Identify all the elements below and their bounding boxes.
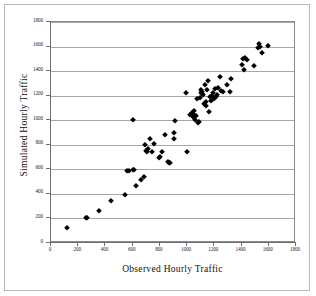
y-axis-tick [46,21,50,22]
data-point [162,132,168,138]
data-point [130,117,136,123]
x-axis-title: Observed Hourly Traffic [50,264,295,274]
y-axis-line [50,21,51,242]
x-axis-tick-label-text: 1000 [172,247,200,252]
data-point [172,118,178,124]
y-axis-tick [46,217,50,218]
data-point [257,43,263,49]
x-axis-tick-label: 1800 [281,247,309,255]
gridline-horizontal [51,96,294,97]
data-point [184,149,190,155]
y-axis-tick-label: 1800 [16,18,43,25]
x-axis-tick-label-text: 1800 [281,247,309,252]
x-axis-line [50,242,295,243]
data-point [149,149,155,155]
x-axis-tick-label-text: 0 [36,247,64,252]
data-point [220,89,226,95]
y-axis-tick-label: 0 [16,239,43,246]
gridline-horizontal [51,22,294,23]
gridline-horizontal [51,71,294,72]
x-axis-tick-label-text: 1600 [254,247,282,252]
x-axis-tick-label-text: 1200 [199,247,227,252]
data-point [223,82,229,88]
x-axis-tick-label-text: 400 [90,247,118,252]
x-axis-tick-label: 600 [118,247,146,255]
data-point [64,225,70,231]
x-axis-tick-label: 0 [36,247,64,255]
data-point [133,183,139,189]
x-axis-tick-label: 400 [90,247,118,255]
data-point [217,74,223,80]
y-axis-tick-label-text: 200 [16,214,43,219]
data-point [259,50,265,56]
x-axis-tick-label-text: 200 [63,247,91,252]
data-point [96,208,102,214]
y-axis-title: Simulated Hourly Traffic [19,40,29,210]
data-point [171,136,177,142]
plot-area [50,21,295,242]
x-axis-tick-label-text: 600 [118,247,146,252]
data-point [108,198,114,204]
x-axis-tick-label: 1600 [254,247,282,255]
x-axis-tick-label: 1400 [227,247,255,255]
y-axis-tick [46,144,50,145]
data-point [251,63,257,69]
gridline-horizontal [51,169,294,170]
x-axis-tick-label: 800 [145,247,173,255]
y-axis-tick [46,168,50,169]
data-point [84,215,90,221]
x-axis-tick-label: 1000 [172,247,200,255]
y-axis-tick [46,193,50,194]
data-point [265,43,271,49]
data-point [244,57,250,63]
x-axis-tick-label-text: 1400 [227,247,255,252]
y-axis-tick [46,119,50,120]
y-axis-tick-label-text: 0 [16,239,43,244]
gridline-horizontal [51,145,294,146]
data-point [121,192,127,198]
y-axis-tick [46,95,50,96]
y-axis-tick-label-text: 1800 [16,18,43,23]
data-point [151,141,157,147]
data-point [206,109,212,115]
y-axis-tick [46,70,50,71]
scatter-plot-figure: 020040060080010001200140016001800 020040… [0,0,316,296]
gridline-horizontal [51,194,294,195]
x-axis-tick-label: 200 [63,247,91,255]
data-point [227,89,233,95]
y-axis-tick [46,46,50,47]
x-axis-tick-label: 1200 [199,247,227,255]
data-point [228,76,234,82]
y-axis-tick-label: 200 [16,214,43,221]
x-axis-tick-label-text: 800 [145,247,173,252]
